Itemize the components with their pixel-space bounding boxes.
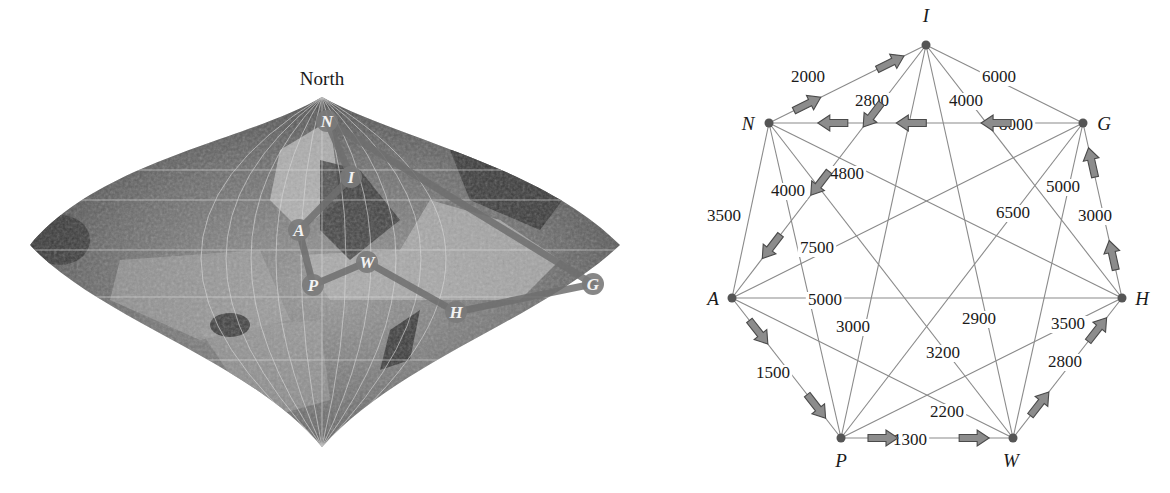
edge-weight-label: 3000 (1078, 206, 1112, 225)
edge-weight-label: 5000 (1046, 177, 1080, 196)
graph-nodes: INGAHPW (705, 5, 1150, 471)
direction-arrow-icon (1081, 146, 1103, 179)
edge-weight-label: 3500 (707, 206, 741, 225)
edge-weight-label: 5000 (808, 290, 842, 309)
edge-weight-label: 7500 (800, 238, 834, 257)
sinusoidal-moon-map: NIAPWHG (0, 0, 660, 493)
node-label: N (741, 113, 756, 134)
map-surface (0, 80, 660, 460)
map-marker-label: W (359, 253, 376, 272)
graph-node-p: P (834, 434, 847, 472)
graph-node-a: A (705, 288, 736, 309)
graph-node-h: H (1118, 288, 1151, 309)
moon-map-panel: North South (0, 0, 660, 493)
edge-weight-label: 4800 (830, 164, 864, 183)
map-marker-i: I (340, 166, 362, 188)
direction-arrow-icon (818, 115, 848, 131)
direction-arrow-icon (801, 390, 832, 424)
edge-weight-label: 4000 (949, 91, 983, 110)
direction-arrow-icon (1101, 239, 1123, 272)
graph-node-w: W (1003, 434, 1021, 472)
map-marker-g: G (582, 273, 604, 295)
weighted-graph-panel: 2000280060004000300029008000350040004800… (690, 0, 1170, 493)
edge-weight-label: 2000 (791, 67, 825, 86)
graph-node-n: N (741, 113, 774, 134)
edge-weight-label: 6000 (982, 67, 1016, 86)
graph-node-g: G (1079, 113, 1112, 134)
node-label: W (1003, 450, 1021, 471)
direction-arrow-icon (790, 90, 824, 118)
map-marker-a: A (288, 219, 310, 241)
edge-weight-label: 2800 (855, 91, 889, 110)
direction-arrow-icon (743, 315, 774, 349)
node-label: H (1134, 288, 1150, 309)
direction-arrow-icon (1024, 387, 1055, 421)
edge-weight-label: 3500 (1051, 314, 1085, 333)
map-marker-p: P (302, 274, 324, 296)
map-marker-label: A (292, 221, 304, 240)
direction-arrow-icon (874, 49, 908, 77)
edge-weight-label: 2200 (930, 402, 964, 421)
node-label: G (1097, 113, 1111, 134)
map-marker-label: P (307, 276, 319, 295)
direction-arrow-icon (756, 230, 787, 264)
map-marker-label: G (587, 275, 600, 294)
map-marker-w: W (356, 251, 378, 273)
complete-graph: 2000280060004000300029008000350040004800… (690, 0, 1170, 493)
edge-weight-label: 2800 (1048, 352, 1082, 371)
edge-n-h (769, 123, 1122, 298)
edge-weight-label: 1500 (756, 363, 790, 382)
node-label: A (705, 288, 719, 309)
map-marker-h: H (445, 301, 467, 323)
direction-arrow-icon (896, 115, 926, 131)
edge-weight-label: 4000 (771, 181, 805, 200)
edge-weight-label: 3000 (836, 317, 870, 336)
edge-weight-label: 2900 (962, 309, 996, 328)
edge-weight-label: 1300 (893, 430, 927, 449)
graph-node-i: I (922, 5, 931, 50)
map-marker-label: H (448, 303, 463, 322)
node-label: I (922, 5, 931, 26)
node-label: P (834, 450, 847, 471)
map-marker-label: N (320, 112, 334, 131)
map-marker-n: N (316, 110, 338, 132)
edge-n-w (769, 123, 1013, 438)
edge-weight-label: 3200 (926, 343, 960, 362)
edge-g-p (841, 123, 1083, 438)
edge-weight-label: 6500 (996, 203, 1030, 222)
direction-arrow-icon (959, 430, 989, 446)
